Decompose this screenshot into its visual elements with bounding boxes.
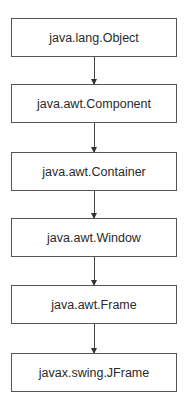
node-label: java.awt.Window [47,231,141,245]
node-label: java.awt.Component [37,97,151,111]
node-label: java.awt.Frame [51,298,136,312]
node-label: javax.swing.JFrame [39,366,149,380]
node-java-awt-component: java.awt.Component [11,84,177,123]
inheritance-arrow [94,191,95,218]
node-label: java.awt.Container [42,165,146,179]
inheritance-arrow [94,123,95,152]
node-java-awt-frame: java.awt.Frame [11,285,177,324]
node-java-awt-container: java.awt.Container [11,152,177,191]
node-javax-swing-jframe: javax.swing.JFrame [11,353,177,392]
node-java-awt-window: java.awt.Window [11,218,177,257]
node-java-lang-object: java.lang.Object [11,18,177,57]
inheritance-arrow [94,257,95,285]
inheritance-arrow [94,324,95,353]
inheritance-arrow [94,57,95,84]
node-label: java.lang.Object [49,31,139,45]
